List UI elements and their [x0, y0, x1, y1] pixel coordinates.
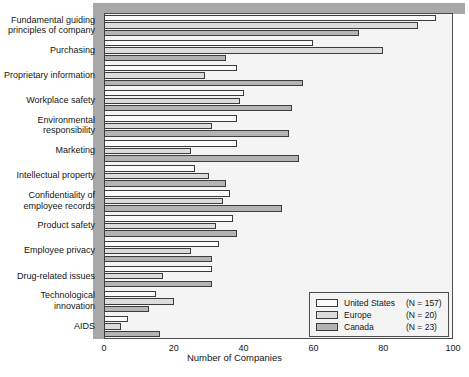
- bar: [104, 115, 237, 121]
- category-label: Workplace safety: [0, 95, 95, 106]
- category-label: Purchasing: [0, 45, 95, 56]
- bar: [104, 248, 191, 254]
- bar: [104, 47, 383, 53]
- legend-label-canada: Canada: [344, 322, 406, 332]
- bar: [104, 15, 436, 21]
- bar: [104, 230, 237, 236]
- bar: [104, 55, 226, 61]
- bar: [104, 148, 191, 154]
- bar: [104, 90, 244, 96]
- bar: [104, 323, 121, 329]
- bar: [104, 190, 230, 196]
- bar: [104, 30, 359, 36]
- bar: [104, 140, 237, 146]
- bar: [104, 130, 289, 136]
- legend-label-united-states: United States: [344, 298, 406, 308]
- bar: [104, 256, 212, 262]
- category-label: Proprietary information: [0, 70, 95, 81]
- bars-layer: [104, 13, 453, 339]
- category-label: Fundamental guiding principles of compan…: [0, 15, 95, 36]
- bar-chart-figure: Getting Caught in t responsibil Fundamen…: [0, 0, 469, 377]
- category-label: Environmental responsibility: [0, 115, 95, 136]
- x-axis-title: Number of Companies: [0, 352, 469, 363]
- bar: [104, 123, 212, 129]
- category-label: Marketing: [0, 145, 95, 156]
- bar: [104, 98, 240, 104]
- legend-swatch-united-states: [316, 299, 338, 307]
- bar: [104, 155, 299, 161]
- bar: [104, 80, 303, 86]
- bar: [104, 281, 212, 287]
- bar: [104, 266, 212, 272]
- legend-label-europe: Europe: [344, 310, 406, 320]
- bar: [104, 198, 223, 204]
- bar: [104, 22, 418, 28]
- bar: [104, 215, 233, 221]
- bar: [104, 291, 156, 297]
- bar: [104, 316, 128, 322]
- bar: [104, 105, 292, 111]
- bar: [104, 205, 282, 211]
- legend-item: Europe (N = 20): [316, 309, 442, 320]
- bar: [104, 241, 219, 247]
- legend-swatch-europe: [316, 311, 338, 319]
- category-label: Product safety: [0, 220, 95, 231]
- category-label: AIDS: [0, 321, 95, 332]
- category-label: Confidentiality of employee records: [0, 190, 95, 211]
- bar: [104, 298, 174, 304]
- bar: [104, 306, 149, 312]
- bar: [104, 223, 216, 229]
- chart-legend: United States (N = 157) Europe (N = 20) …: [309, 292, 449, 337]
- bar: [104, 331, 160, 337]
- bar: [104, 180, 226, 186]
- legend-item: Canada (N = 23): [316, 321, 442, 332]
- category-label: Employee privacy: [0, 245, 95, 256]
- category-label: Technological innovation: [0, 290, 95, 311]
- legend-n-united-states: (N = 157): [406, 298, 442, 308]
- category-label: Intellectual property: [0, 170, 95, 181]
- bar: [104, 165, 195, 171]
- legend-item: United States (N = 157): [316, 297, 442, 308]
- bar: [104, 65, 237, 71]
- bar: [104, 40, 313, 46]
- legend-n-europe: (N = 20): [406, 310, 437, 320]
- bar: [104, 173, 209, 179]
- legend-swatch-canada: [316, 323, 338, 331]
- bar: [104, 273, 163, 279]
- bar: [104, 72, 205, 78]
- category-label: Drug-related issues: [0, 271, 95, 282]
- legend-n-canada: (N = 23): [406, 322, 437, 332]
